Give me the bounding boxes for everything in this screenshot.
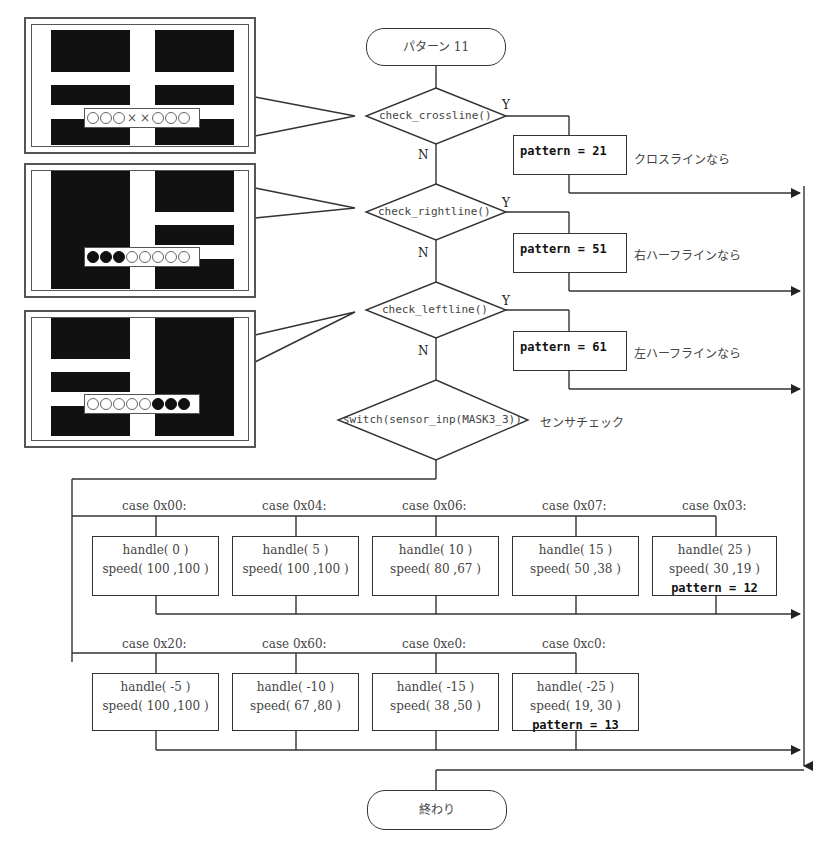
end-terminal: 終わり xyxy=(367,790,507,830)
case-box-0x60: handle( -10 ) speed( 67 ,80 ) xyxy=(232,673,359,731)
speed-call: speed( 50 ,38 ) xyxy=(513,560,638,579)
comment-crossline: クロスラインなら xyxy=(634,150,730,167)
action-pattern-51: pattern = 51 xyxy=(513,233,627,273)
case-label: case 0x60: xyxy=(262,637,327,651)
sensor-panel-rightline xyxy=(24,163,256,298)
case-box-0x00: handle( 0 ) speed( 100 ,100 ) xyxy=(92,536,219,596)
switch-comment: センサチェック xyxy=(540,413,624,430)
start-terminal: パターン 11 xyxy=(366,28,506,66)
case-label: case 0xe0: xyxy=(402,637,466,651)
decision-crossline-no: N xyxy=(418,148,429,162)
speed-call: speed( 100 ,100 ) xyxy=(93,560,218,579)
case-label: case 0x07: xyxy=(542,499,607,513)
pattern-assign: pattern = 12 xyxy=(653,579,776,598)
pattern-assign: pattern = 13 xyxy=(513,716,638,735)
switch-label: switch(sensor_inp(MASK3_3)) xyxy=(343,413,522,426)
action-pattern-61-label: pattern = 61 xyxy=(520,340,607,354)
sensor-panel-crossline: ×× xyxy=(24,17,256,154)
speed-call: speed( 67 ,80 ) xyxy=(233,697,358,716)
case-box-0x20: handle( -5 ) speed( 100 ,100 ) xyxy=(92,673,219,731)
start-terminal-label: パターン 11 xyxy=(403,40,469,54)
decision-rightline-no: N xyxy=(418,246,429,260)
speed-call: speed( 100 ,100 ) xyxy=(93,697,218,716)
handle-call: handle( -15 ) xyxy=(373,678,498,697)
case-box-0x07: handle( 15 ) speed( 50 ,38 ) xyxy=(512,536,639,596)
decision-leftline-label: check_leftline() xyxy=(382,303,488,316)
case-label: case 0x00: xyxy=(122,499,187,513)
speed-call: speed( 19, 30 ) xyxy=(513,697,638,716)
speed-call: speed( 100 ,100 ) xyxy=(233,560,358,579)
end-terminal-label: 終わり xyxy=(419,803,455,817)
comment-rightline: 右ハーフラインなら xyxy=(634,246,741,263)
case-box-0xc0: handle( -25 ) speed( 19, 30 ) pattern = … xyxy=(512,673,639,731)
sensor-bar xyxy=(84,247,200,267)
case-label: case 0xc0: xyxy=(542,637,606,651)
sensor-panel-leftline xyxy=(24,310,256,448)
decision-leftline-yes: Y xyxy=(502,294,510,308)
action-pattern-61: pattern = 61 xyxy=(513,331,627,371)
handle-call: handle( -5 ) xyxy=(93,678,218,697)
action-pattern-21: pattern = 21 xyxy=(513,135,627,175)
speed-call: speed( 80 ,67 ) xyxy=(373,560,498,579)
handle-call: handle( 10 ) xyxy=(373,541,498,560)
sensor-bar xyxy=(84,394,200,414)
case-box-0xe0: handle( -15 ) speed( 38 ,50 ) xyxy=(372,673,499,731)
handle-call: handle( -10 ) xyxy=(233,678,358,697)
case-box-0x04: handle( 5 ) speed( 100 ,100 ) xyxy=(232,536,359,596)
handle-call: handle( 15 ) xyxy=(513,541,638,560)
speed-call: speed( 30 ,19 ) xyxy=(653,560,776,579)
handle-call: handle( -25 ) xyxy=(513,678,638,697)
case-box-0x06: handle( 10 ) speed( 80 ,67 ) xyxy=(372,536,499,596)
action-pattern-51-label: pattern = 51 xyxy=(520,242,607,256)
sensor-bar: ×× xyxy=(84,108,200,128)
decision-leftline-no: N xyxy=(418,344,429,358)
action-pattern-21-label: pattern = 21 xyxy=(520,144,607,158)
handle-call: handle( 0 ) xyxy=(93,541,218,560)
handle-call: handle( 25 ) xyxy=(653,541,776,560)
speed-call: speed( 38 ,50 ) xyxy=(373,697,498,716)
case-label: case 0x06: xyxy=(402,499,467,513)
handle-call: handle( 5 ) xyxy=(233,541,358,560)
decision-crossline-label: check_crossline() xyxy=(379,109,492,122)
case-label: case 0x03: xyxy=(682,499,747,513)
decision-rightline-label: check_rightline() xyxy=(378,205,491,218)
decision-crossline-yes: Y xyxy=(502,98,510,112)
decision-rightline-yes: Y xyxy=(502,196,510,210)
comment-leftline: 左ハーフラインなら xyxy=(634,344,741,361)
case-label: case 0x20: xyxy=(122,637,187,651)
case-box-0x03: handle( 25 ) speed( 30 ,19 ) pattern = 1… xyxy=(652,536,777,596)
case-label: case 0x04: xyxy=(262,499,327,513)
